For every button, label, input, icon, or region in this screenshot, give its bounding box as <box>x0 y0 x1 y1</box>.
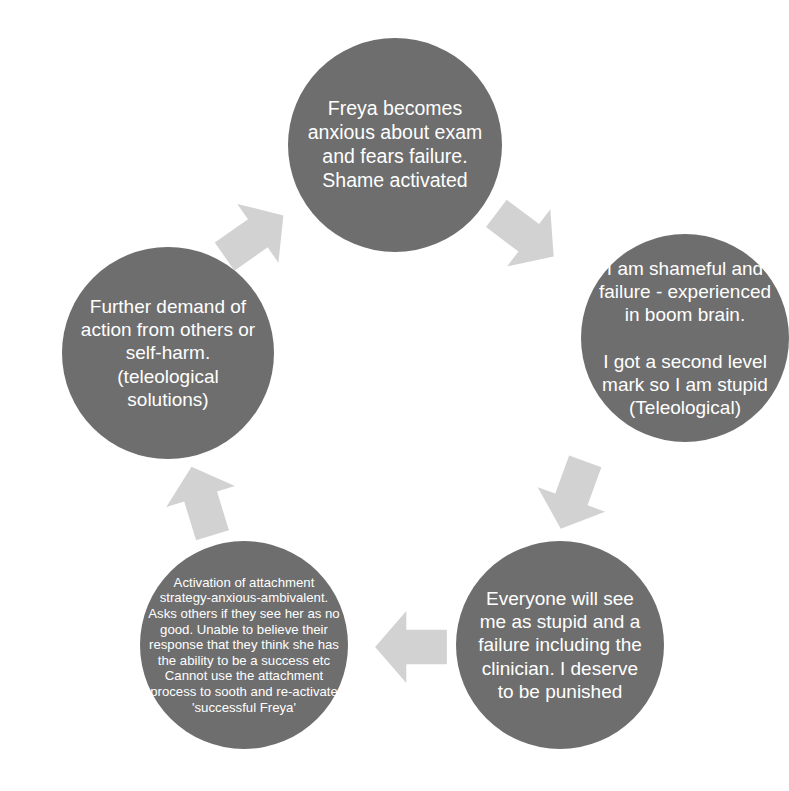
cycle-node-right: I am shameful and failure - experienced … <box>581 234 789 442</box>
diagram-canvas: Freya becomes anxious about exam and fea… <box>0 0 789 791</box>
arrow-bottom-left-to-left-icon <box>153 452 250 549</box>
cycle-node-top-label: Freya becomes anxious about exam and fea… <box>305 97 485 192</box>
arrow-bottom-right-to-bottom-left-icon <box>372 608 450 686</box>
cycle-node-bottom-left-label: Activation of attachment strategy-anxiou… <box>146 575 342 715</box>
cycle-node-bottom-left: Activation of attachment strategy-anxiou… <box>140 541 348 749</box>
arrow-right-to-bottom-right-icon <box>523 445 623 545</box>
cycle-node-left-label: Further demand of action from others or … <box>79 295 257 411</box>
cycle-node-left: Further demand of action from others or … <box>62 247 274 459</box>
cycle-node-right-label: I am shameful and failure - experienced … <box>598 257 773 419</box>
cycle-node-top: Freya becomes anxious about exam and fea… <box>288 38 502 252</box>
cycle-node-bottom-right: Everyone will see me as stupid and a fai… <box>456 541 664 749</box>
cycle-node-bottom-right-label: Everyone will see me as stupid and a fai… <box>473 587 648 703</box>
